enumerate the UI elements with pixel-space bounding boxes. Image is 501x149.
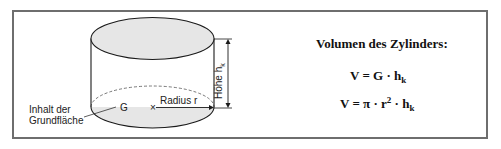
base-area-label-1: Inhalt der	[29, 104, 71, 115]
formula-2-main: V = π · r	[340, 96, 387, 111]
formula-2-mid: · h	[391, 96, 409, 111]
base-area-label-2: Grundfläche	[29, 115, 84, 126]
formula-1-main: V = G · h	[350, 68, 401, 83]
formula-2-sup: 2	[387, 95, 392, 105]
base-symbol: G	[120, 102, 128, 113]
cylinder-diagram: Höhe hk × Radius r G Inhalt der Grundflä…	[0, 0, 501, 149]
formula-2: V = π · r2 · hk	[340, 96, 414, 112]
formula-2-sub: k	[409, 103, 414, 113]
radius-label: Radius r	[160, 95, 198, 106]
formula-1: V = G · hk	[350, 68, 406, 84]
cylinder-volume-figure: Höhe hk × Radius r G Inhalt der Grundflä…	[0, 0, 501, 149]
formula-title: Volumen des Zylinders:	[316, 36, 448, 52]
formula-1-sub: k	[401, 75, 406, 85]
height-label: Höhe hk	[213, 63, 226, 99]
top-face	[91, 18, 214, 60]
center-mark: ×	[150, 102, 156, 113]
